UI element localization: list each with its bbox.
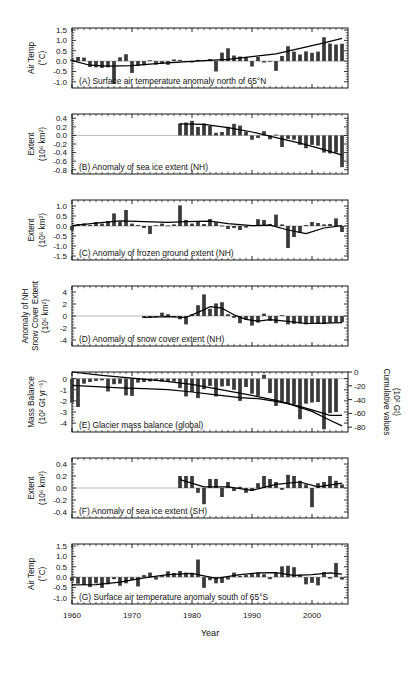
data-bar [94, 577, 98, 583]
data-bar [262, 375, 266, 379]
y-tick-label: 1.0 [56, 552, 68, 561]
data-bar [118, 379, 122, 384]
right-axis-label: Cumulative values [382, 369, 391, 436]
y-axis-unit: (°C) [38, 566, 47, 581]
y-tick-label: -2 [60, 397, 68, 406]
data-bar [322, 482, 326, 488]
data-bar [280, 315, 284, 316]
data-bar [226, 379, 230, 386]
data-bar [76, 379, 80, 407]
data-bar [88, 225, 92, 226]
data-bar [322, 379, 326, 430]
data-bar [202, 123, 206, 135]
y-tick-label: -4 [60, 336, 68, 345]
y-tick-label: 1.0 [56, 36, 68, 45]
data-bar [208, 309, 212, 316]
data-bar [76, 577, 80, 584]
y-tick-label: 0.2 [56, 472, 68, 481]
data-bar [226, 577, 230, 579]
panel-caption: (B) Anomaly of sea ice extent (NH) [79, 162, 208, 172]
y-axis-label: Snow Cover Extent [31, 280, 40, 351]
data-bar [304, 135, 308, 148]
y-tick-label: -4 [60, 419, 68, 428]
right-y-tick-label: -80 [354, 423, 366, 432]
y-tick-label: 0 [63, 312, 68, 321]
data-bar [316, 316, 320, 324]
data-bar [280, 224, 284, 226]
data-bar [178, 205, 182, 226]
figure-canvas: 1.51.00.50.0-0.5-1.0(A) Surface air temp… [0, 0, 412, 674]
y-tick-label: 0.5 [56, 212, 68, 221]
data-bar [100, 224, 104, 226]
data-bar [208, 379, 212, 386]
panel-caption: (F) Anomaly of sea ice extent (SH) [79, 506, 207, 516]
y-tick-label: 0.0 [56, 222, 68, 231]
data-bar [220, 379, 224, 387]
data-bar [94, 379, 98, 381]
y-tick-label: 1.5 [56, 542, 68, 551]
data-bar [292, 379, 296, 405]
data-bar [310, 135, 314, 144]
y-tick-label: -0.8 [53, 166, 67, 175]
panel-D: 420-2-4(D) Anomaly of snow cover extent … [21, 280, 348, 351]
data-bar [148, 60, 152, 61]
data-bar [154, 577, 158, 579]
data-bar [250, 61, 254, 66]
data-bar [340, 135, 344, 167]
y-tick-label: 2 [63, 300, 68, 309]
right-y-tick-label: -60 [354, 409, 366, 418]
panel-caption: (D) Anomaly of snow cover extent (NH) [79, 334, 224, 344]
data-bar [280, 379, 284, 401]
data-bar [334, 135, 338, 152]
y-tick-label: -0.5 [53, 583, 67, 592]
data-bar [94, 61, 98, 67]
data-bar [286, 135, 290, 138]
y-tick-label: -3 [60, 408, 68, 417]
data-bar [178, 60, 182, 61]
data-bar [274, 61, 278, 71]
data-bar [298, 54, 302, 61]
data-bar [124, 379, 128, 396]
data-bar [226, 314, 230, 316]
data-bar [172, 224, 176, 226]
data-bar [142, 226, 146, 228]
x-tick-label: 1970 [123, 611, 141, 620]
data-bar [250, 379, 254, 394]
data-bar [190, 476, 194, 488]
data-bar [328, 476, 332, 488]
y-tick-label: 0.5 [56, 47, 68, 56]
data-bar [118, 57, 122, 61]
panel-caption: (E) Glacier mass balance (global) [79, 420, 203, 430]
data-bar [214, 379, 218, 397]
data-bar [142, 575, 146, 577]
right-y-tick-label: -20 [354, 382, 366, 391]
data-bar [196, 488, 200, 493]
data-bar [310, 222, 314, 226]
data-bar [100, 379, 104, 381]
data-bar [112, 213, 116, 226]
data-bar [328, 44, 332, 62]
data-bar [172, 573, 176, 577]
right-y-tick-label: 0 [354, 368, 359, 377]
y-tick-label: 0.5 [56, 563, 68, 572]
data-bar [82, 379, 86, 384]
data-bar [310, 488, 314, 507]
data-bar [208, 219, 212, 226]
data-bar [226, 226, 230, 229]
data-bar [214, 133, 218, 136]
data-bar [214, 222, 218, 226]
x-tick-label: 2000 [303, 611, 321, 620]
y-tick-label: -0.5 [53, 67, 67, 76]
data-bar [172, 379, 176, 382]
y-axis-label: Mass Balance [27, 376, 36, 428]
data-bar [274, 135, 278, 136]
data-bar [340, 577, 344, 579]
data-bar [274, 573, 278, 577]
data-bar [184, 220, 188, 226]
data-bar [304, 484, 308, 488]
y-axis-label: Extent [27, 218, 36, 242]
y-tick-label: 0.0 [56, 573, 68, 582]
data-bar [232, 316, 236, 318]
data-bar [100, 577, 104, 588]
panel-caption: (G) Surface air temperature anomaly sout… [79, 592, 268, 602]
